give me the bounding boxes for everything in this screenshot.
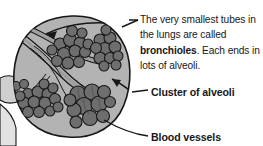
callout-bronchioles-text1: The very smallest tubes in the lungs are… (140, 14, 256, 40)
callout-cluster-of-alveoli: Cluster of alveoli (151, 86, 235, 99)
leader-line-cluster (132, 90, 148, 92)
callout-bronchioles: The very smallest tubes in the lungs are… (140, 12, 262, 74)
leader-line-bronchioles (122, 20, 138, 27)
callout-blood-vessels: Blood vessels (151, 131, 221, 144)
figure-canvas: The very smallest tubes in the lungs are… (0, 0, 263, 146)
callout-bronchioles-term: bronchioles (140, 45, 197, 56)
